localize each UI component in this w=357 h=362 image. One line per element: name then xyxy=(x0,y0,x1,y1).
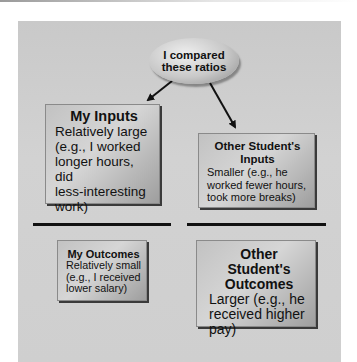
ratio-divider-left xyxy=(33,223,171,226)
other-inputs-box: Other Student's Inputs Smaller (e.g., he… xyxy=(198,133,315,208)
other-outcomes-box: Other Student's Outcomes Larger (e.g., h… xyxy=(196,240,316,327)
other-outcomes-description: Larger (e.g., he received higher pay) xyxy=(209,292,309,337)
top-border xyxy=(0,0,357,2)
my-outcomes-box: My Outcomes Relatively small (e.g., I re… xyxy=(57,240,147,301)
center-node-line1: I compared xyxy=(163,49,224,61)
my-inputs-box: My Inputs Relatively large (e.g., I work… xyxy=(45,104,160,204)
other-inputs-title: Other Student's Inputs xyxy=(207,140,308,166)
my-inputs-description: Relatively large (e.g., I worked longer … xyxy=(55,124,153,214)
center-node-oval: I compared these ratios xyxy=(149,38,239,84)
other-outcomes-title: Other Student's Outcomes xyxy=(209,247,309,292)
my-outcomes-description: Relatively small (e.g., I received lower… xyxy=(66,260,141,295)
center-node-line2: these ratios xyxy=(162,61,227,73)
ratio-divider-right xyxy=(187,223,326,226)
my-inputs-title: My Inputs xyxy=(55,108,153,124)
other-inputs-description: Smaller (e.g., he worked fewer hours, to… xyxy=(207,166,308,204)
